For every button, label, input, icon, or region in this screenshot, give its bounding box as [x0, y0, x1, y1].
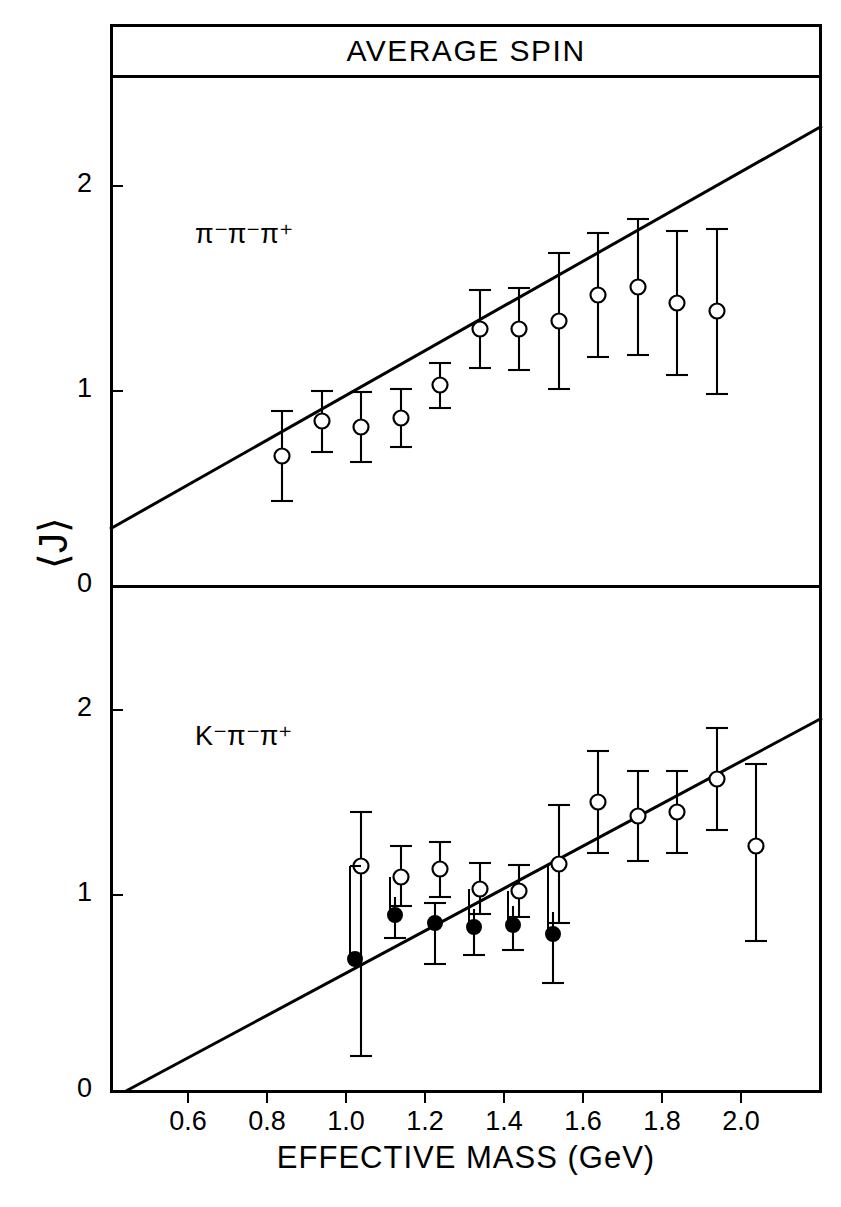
xtick-0.6 [187, 1090, 189, 1103]
bottom-panel-plot-area [110, 588, 822, 1093]
ytick-label-bottom-2: 2 [52, 694, 92, 721]
xtick-2.0 [740, 1090, 742, 1103]
data-point [271, 411, 293, 501]
xtick-label-1.8: 1.8 [632, 1108, 692, 1135]
panel-k-pi-pi: 2 1 0 K⁻π⁻π⁺ [110, 588, 822, 1093]
title-box: AVERAGE SPIN [110, 24, 822, 78]
data-point [350, 392, 372, 462]
data-point [348, 866, 362, 966]
data-points-k-filled [348, 864, 564, 983]
data-point [666, 231, 688, 375]
data-point [424, 903, 446, 964]
data-point [706, 229, 728, 394]
data-point [429, 842, 451, 897]
data-point [311, 391, 333, 452]
ytick-label-bottom-1: 1 [52, 879, 92, 906]
fit-line-pi [110, 126, 822, 529]
data-point [627, 771, 649, 861]
xtick-label-1.6: 1.6 [553, 1108, 613, 1135]
ytick-label-bottom-0: 0 [52, 1075, 92, 1102]
data-points-k-open [350, 728, 767, 1056]
xtick-1.6 [582, 1090, 584, 1103]
xtick-label-2.0: 2.0 [711, 1108, 771, 1135]
ytick-label-top-0: 0 [52, 570, 92, 597]
xtick-label-1.0: 1.0 [316, 1108, 376, 1135]
top-panel-plot-area [110, 78, 822, 588]
ytick-label-top-2: 2 [52, 170, 92, 197]
data-point [548, 805, 570, 923]
xtick-label-0.6: 0.6 [158, 1108, 218, 1135]
ytick-label-top-1: 1 [52, 375, 92, 402]
data-point [390, 846, 412, 906]
xtick-label-1.2: 1.2 [395, 1108, 455, 1135]
data-point [429, 363, 451, 408]
x-axis-title: EFFECTIVE MASS (GeV) [110, 1140, 822, 1176]
xtick-1.0 [345, 1090, 347, 1103]
xtick-0.8 [266, 1090, 268, 1103]
data-point [350, 812, 372, 1056]
xtick-label-0.8: 0.8 [237, 1108, 297, 1135]
data-point [384, 877, 406, 938]
xtick-1.4 [503, 1090, 505, 1103]
data-point [745, 764, 767, 941]
data-point [469, 290, 491, 368]
data-point [706, 728, 728, 830]
data-point [548, 253, 570, 389]
panel-pi-pi-pi: 2 1 0 π⁻π⁻π⁺ [110, 78, 822, 588]
xtick-1.8 [661, 1090, 663, 1103]
xtick-label-1.4: 1.4 [474, 1108, 534, 1135]
x-axis: 0.6 0.8 1.0 1.2 1.4 1.6 1.8 2.0 [110, 1090, 822, 1140]
xtick-1.2 [424, 1090, 426, 1103]
data-point [587, 233, 609, 357]
data-point [627, 219, 649, 355]
figure-average-spin: AVERAGE SPIN ⟨J⟩ EFFECTIVE MASS (GeV) 2 … [0, 0, 841, 1207]
data-point [502, 891, 524, 950]
figure-title: AVERAGE SPIN [110, 24, 822, 78]
data-point [587, 751, 609, 853]
data-point [666, 771, 688, 853]
data-points-pi [271, 219, 728, 501]
data-point [390, 389, 412, 447]
data-point [508, 865, 530, 917]
